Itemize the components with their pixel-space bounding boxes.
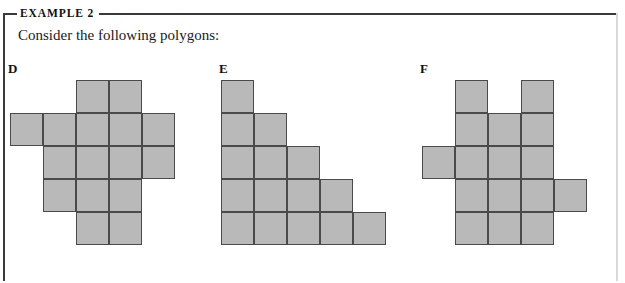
polygon-cell [109, 113, 142, 146]
polygon-cell [287, 179, 320, 212]
polygon-label-d: D [8, 62, 17, 76]
polygon-cell [43, 179, 76, 212]
polygon-cell [488, 146, 521, 179]
polygon-cell [221, 113, 254, 146]
polygon-cell [287, 212, 320, 245]
polygon-cell [488, 179, 521, 212]
polygon-cell [488, 113, 521, 146]
polygon-cell [455, 146, 488, 179]
polygon-cell [76, 113, 109, 146]
polygon-label-e: E [219, 62, 228, 76]
polygon-cell [554, 179, 587, 212]
polygon-cell [521, 212, 554, 245]
intro-text: Consider the following polygons: [18, 26, 219, 45]
polygon-cell [43, 113, 76, 146]
polygon-cell [521, 146, 554, 179]
polygon-cell [320, 179, 353, 212]
polygon-cell [455, 212, 488, 245]
example-frame-rule-right [99, 13, 618, 15]
polygon-cell [221, 146, 254, 179]
polygon-cell [320, 212, 353, 245]
polygon-cell [287, 146, 320, 179]
polygon-cell [254, 113, 287, 146]
polygon-cell [521, 113, 554, 146]
polygon-cell [76, 179, 109, 212]
polygon-cell [221, 212, 254, 245]
polygon-cell [142, 146, 175, 179]
polygon-cell [254, 212, 287, 245]
polygon-cell [109, 212, 142, 245]
polygon-cell [109, 80, 142, 113]
polygon-cell [10, 113, 43, 146]
polygon-cell [142, 113, 175, 146]
polygon-cell [43, 146, 76, 179]
polygon-cell [455, 179, 488, 212]
polygon-cell [221, 179, 254, 212]
polygon-cell [353, 212, 386, 245]
example-frame-right-edge [616, 13, 618, 281]
polygon-cell [76, 212, 109, 245]
polygon-cell [422, 146, 455, 179]
polygon-cell [254, 146, 287, 179]
polygon-cell [455, 113, 488, 146]
example-frame-rule-left [3, 13, 17, 15]
polygon-cell [76, 80, 109, 113]
polygon-cell [109, 179, 142, 212]
polygon-cell [109, 146, 142, 179]
polygon-cell [76, 146, 109, 179]
example-heading: EXAMPLE 2 [20, 6, 94, 21]
polygon-cell [221, 80, 254, 113]
polygon-cell [254, 179, 287, 212]
polygon-cell [488, 212, 521, 245]
polygon-cell [455, 80, 488, 113]
polygon-cell [521, 80, 554, 113]
polygon-cell [521, 179, 554, 212]
polygon-label-f: F [420, 62, 428, 76]
